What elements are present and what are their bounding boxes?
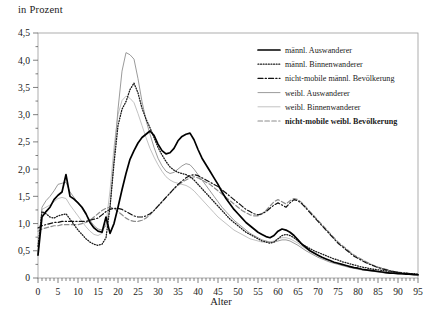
y-tick-label: 2,0: [18, 164, 30, 175]
legend-label: männl. Binnenwanderer: [285, 60, 363, 69]
x-tick-label: 25: [133, 286, 143, 297]
x-tick-label: 85: [373, 286, 383, 297]
x-tick-label: 45: [213, 286, 223, 297]
y-tick-label: 3,5: [18, 82, 30, 93]
x-tick-label: 20: [113, 286, 123, 297]
x-tick-label: 60: [273, 286, 283, 297]
x-tick-label: 10: [73, 286, 83, 297]
legend-label: nicht-mobile weibl. Bevölkerung: [285, 117, 397, 126]
x-tick-label: 15: [93, 286, 103, 297]
y-tick-label: 0,5: [18, 245, 30, 256]
chart-container: in Prozent Alter 4,54,03,53,02,52,01,51,…: [0, 0, 442, 315]
x-tick-label: 90: [393, 286, 403, 297]
series-line: [38, 53, 418, 276]
x-tick-label: 0: [36, 286, 41, 297]
y-tick-label: 4,0: [18, 55, 30, 66]
y-tick-label: 1,5: [18, 191, 30, 202]
series-line: [38, 131, 418, 275]
y-tick-label: 4,5: [18, 27, 30, 38]
x-tick-label: 75: [333, 286, 343, 297]
x-tick-label: 95: [413, 286, 423, 297]
legend-label: männl. Auswanderer: [285, 46, 352, 55]
x-tick-label: 65: [293, 286, 303, 297]
series-line: [38, 83, 418, 274]
x-tick-label: 55: [253, 286, 263, 297]
legend-label: weibl. Binnenwanderer: [285, 103, 361, 112]
x-tick-label: 35: [173, 286, 183, 297]
legend-label: nicht-mobile männl. Bevölkerung: [285, 74, 394, 83]
x-tick-label: 70: [313, 286, 323, 297]
line-chart-plot: 4,54,03,53,02,52,01,51,00,50051015202530…: [0, 0, 442, 315]
x-tick-label: 80: [353, 286, 363, 297]
x-tick-label: 50: [233, 286, 243, 297]
plot-frame: [38, 33, 418, 278]
legend-label: weibl. Auswanderer: [285, 89, 350, 98]
y-tick-label: 1,0: [18, 218, 30, 229]
y-tick-label: 3,0: [18, 109, 30, 120]
y-tick-label: 0: [25, 272, 30, 283]
x-tick-label: 5: [56, 286, 61, 297]
x-tick-label: 30: [153, 286, 163, 297]
x-tick-label: 40: [193, 286, 203, 297]
y-tick-label: 2,5: [18, 136, 30, 147]
